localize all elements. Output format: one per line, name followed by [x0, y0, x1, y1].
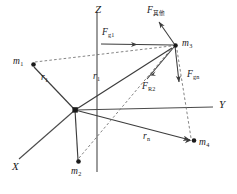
- radius-label-r1-mid: r1: [93, 72, 100, 82]
- diagram-canvas: [0, 0, 237, 194]
- origin-point-marker: [72, 107, 77, 112]
- force-label-f-qita: F其他: [147, 6, 165, 16]
- radius-label-rn: rn: [143, 132, 150, 142]
- mass-point-m3: [173, 43, 178, 48]
- dashed-m2-to-m3: [79, 48, 172, 158]
- mass-label-m3: m3: [182, 39, 192, 49]
- force-label-f-r2: FR2: [142, 82, 155, 92]
- mass-label-m4-sub: 4: [206, 141, 209, 148]
- force-label-f-qita-sub: 其他: [153, 10, 165, 16]
- force-label-f-g1: Fg1: [102, 28, 114, 38]
- position-vectors: [34, 48, 190, 160]
- force-label-f-g1-sub: g1: [108, 31, 114, 38]
- mass-label-m4: m4: [199, 138, 209, 148]
- axis-lines: [19, 12, 213, 172]
- mass-label-m1-base: m: [13, 56, 20, 66]
- vector-origin-to-m4: [75, 110, 190, 140]
- force-vector-f-r2: [147, 47, 174, 79]
- mass-label-m2-sub: 2: [78, 170, 81, 177]
- mass-label-m4-base: m: [199, 137, 206, 147]
- force-label-f-r2-base: F: [142, 81, 148, 91]
- mass-point-m2: [76, 159, 81, 164]
- mass-label-m3-sub: 3: [189, 42, 192, 49]
- radius-label-r1-mid-sub: 1: [97, 75, 100, 82]
- axis-label-z: Z: [95, 4, 101, 15]
- force-label-f-r2-sub: R2: [148, 85, 155, 92]
- axis-label-x: X: [12, 161, 19, 172]
- axis-label-y: Y: [219, 99, 225, 110]
- force-label-f-gn-base: F: [187, 69, 193, 79]
- force-label-f-g1-base: F: [102, 27, 108, 37]
- force-label-f-gn-sub: gn: [193, 73, 199, 80]
- mass-point-markers: [31, 43, 196, 164]
- dashed-m1-to-m3: [35, 46, 171, 62]
- mass-label-m2-base: m: [71, 166, 78, 176]
- force-label-f-gn: Fgn: [187, 70, 199, 80]
- radius-label-r1-left-sub: 1: [45, 76, 48, 83]
- radius-label-rn-sub: n: [147, 135, 150, 142]
- dashed-m3-to-m4: [177, 50, 191, 138]
- dashed-connectors: [35, 46, 191, 158]
- mass-label-m3-base: m: [182, 38, 189, 48]
- radius-label-r1-left: r1: [41, 73, 48, 83]
- mass-label-m1-sub: 1: [20, 60, 23, 67]
- mass-label-m2: m2: [71, 167, 81, 177]
- force-vector-f-qita: [159, 22, 175, 45]
- mass-label-m1: m1: [13, 57, 23, 67]
- mass-point-m4: [192, 138, 197, 143]
- axis-line-x: [19, 110, 75, 159]
- mass-point-m1: [31, 62, 36, 67]
- force-label-f-qita-base: F: [147, 5, 153, 15]
- vector-origin-to-m2: [75, 110, 78, 160]
- axis-line-y: [75, 107, 213, 110]
- physics-vector-diagram: X Y Z m1 m2 m3 m4 F其他 Fg1 Fgn FR2 r1 r1 …: [0, 0, 237, 194]
- vector-origin-to-m3: [75, 48, 172, 110]
